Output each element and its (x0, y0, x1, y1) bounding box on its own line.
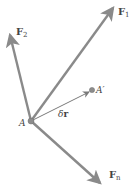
force-f1-vector: F1 (31, 6, 129, 121)
force-diagram: F1 F2 Fn δr A′ A (0, 0, 129, 195)
displacement-label: δr (58, 109, 68, 119)
displacement-vector: δr (31, 92, 89, 121)
force-f2-arrow (10, 35, 31, 121)
force-f2-vector: F2 (10, 26, 31, 121)
point-a: A (18, 118, 34, 128)
force-f1-label: F1 (118, 6, 129, 19)
point-a-prime-dot (89, 87, 94, 92)
force-fn-arrow (31, 121, 100, 183)
force-fn-vector: Fn (31, 121, 121, 183)
point-a-prime-label: A′ (95, 85, 105, 95)
point-a-prime: A′ (89, 85, 104, 95)
point-a-dot (28, 118, 34, 124)
force-fn-label: Fn (109, 169, 121, 182)
force-f1-arrow (31, 8, 113, 121)
force-f2-label: F2 (16, 26, 28, 39)
point-a-label: A (18, 118, 26, 128)
